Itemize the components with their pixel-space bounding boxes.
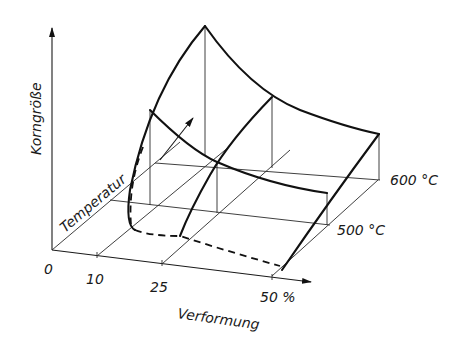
tick-label-10: 10	[86, 271, 104, 287]
depth-axis-label: Temperatur	[57, 170, 130, 235]
horizontal-axis-label: Verformung	[177, 305, 261, 332]
temp-label-600: 600 °C	[390, 172, 438, 188]
grain-size-diagram: Korngröße Temperatur Verformung 0 10 25 …	[0, 0, 463, 348]
vertical-axis-label: Korngröße	[28, 82, 44, 155]
tick-label-25: 25	[150, 279, 168, 295]
tick-label-50: 50 %	[260, 289, 296, 305]
temp-label-500: 500 °C	[337, 222, 385, 238]
tick-label-0: 0	[44, 261, 53, 277]
